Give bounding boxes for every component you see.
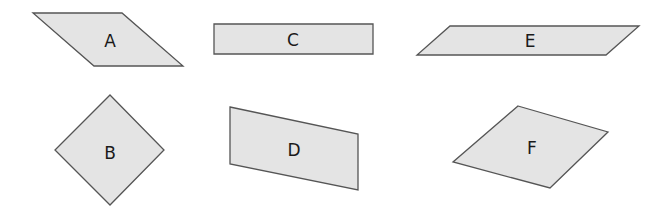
shape-f: F	[453, 106, 608, 188]
shape-e-label: E	[525, 31, 536, 51]
shape-d: D	[230, 107, 358, 190]
shape-b: B	[55, 95, 164, 205]
shape-f-label: F	[527, 138, 537, 158]
shape-a-label: A	[104, 31, 116, 51]
shape-a: A	[33, 13, 183, 66]
shape-e: E	[417, 26, 639, 55]
shape-b-label: B	[104, 143, 116, 163]
shape-d-label: D	[287, 140, 300, 160]
shapes-diagram: A C E B D F	[0, 0, 669, 222]
shape-c: C	[214, 24, 373, 54]
shape-c-label: C	[287, 30, 299, 50]
